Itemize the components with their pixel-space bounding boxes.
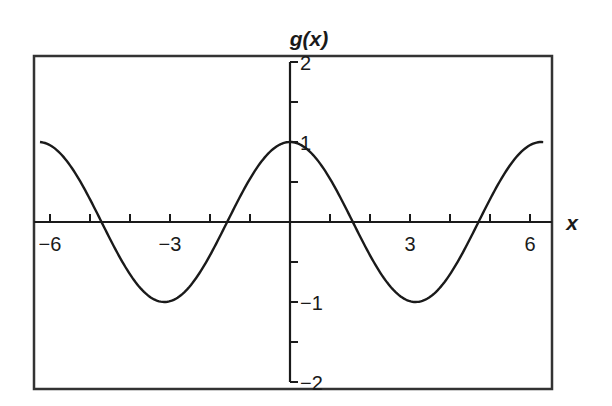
x-tick-label: 6 [524, 233, 535, 255]
x-axis-title: x [565, 211, 579, 234]
y-tick-label: −2 [300, 372, 323, 394]
y-tick-label: 2 [300, 52, 311, 74]
x-tick-label: −3 [159, 233, 182, 255]
y-axis-title: g(x) [289, 27, 329, 50]
y-tick-label: −1 [300, 292, 323, 314]
x-tick-label: 3 [404, 233, 415, 255]
cosine-chart: −6−336 21−1−2 g(x) x [0, 0, 612, 406]
axes: −6−336 21−1−2 [34, 52, 552, 394]
x-tick-label: −6 [39, 233, 62, 255]
